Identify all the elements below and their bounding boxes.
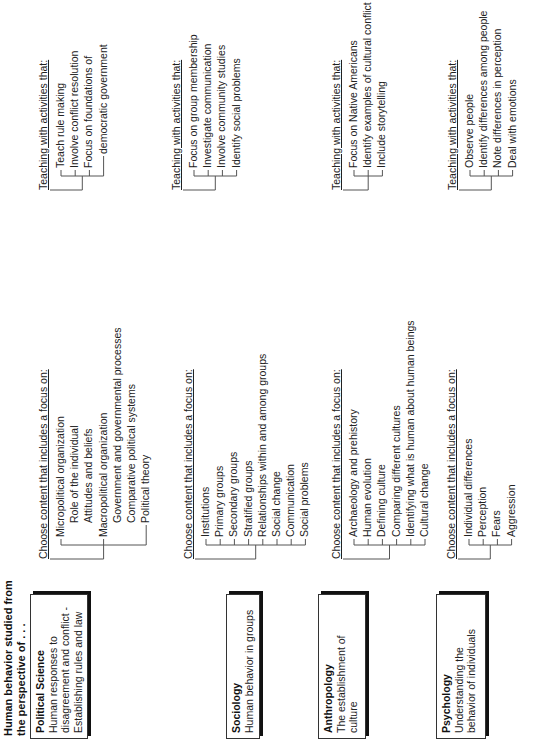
activities-heading: Teaching with activities that: bbox=[170, 60, 182, 190]
header-line-1: Human behavior studied from bbox=[2, 580, 15, 736]
activity-item: Focus on group membership bbox=[187, 34, 199, 168]
discipline-box-psychology: Psychology Understanding the behavior of… bbox=[436, 594, 486, 739]
activity-item: Observe people bbox=[463, 94, 475, 168]
content-item: Human evolution bbox=[361, 458, 373, 537]
discipline-box-anthropology: Anthropology The establishment of cultur… bbox=[318, 594, 366, 739]
content-item: Defining culture bbox=[375, 464, 387, 537]
content-item: Perception bbox=[476, 487, 488, 537]
content-item: Aggression bbox=[505, 484, 517, 537]
content-item: Macropolitical organization bbox=[97, 413, 109, 537]
activity-item: Identify examples of cultural conflict bbox=[361, 2, 373, 168]
activity-item: Focus on Native Americans bbox=[347, 40, 359, 168]
discipline-box-sociology: Sociology Human behavior in groups bbox=[226, 594, 260, 739]
activities-heading: Teaching with activities that: bbox=[330, 60, 342, 190]
content-item: Individual differences bbox=[462, 439, 474, 537]
content-item: Micropolitical organization bbox=[54, 416, 66, 537]
content-heading: Choose content that includes a focus on: bbox=[445, 369, 457, 559]
content-heading: Choose content that includes a focus on: bbox=[37, 369, 49, 559]
content-item: Archaeology and prehistory bbox=[347, 409, 359, 537]
content-item: Secondary groups bbox=[227, 452, 239, 537]
activity-item: Identify differences among people bbox=[477, 11, 489, 168]
discipline-description: The establishment of culture bbox=[335, 600, 360, 733]
activity-item: Include storytelling bbox=[375, 81, 387, 168]
content-heading: Choose content that includes a focus on: bbox=[330, 369, 342, 559]
content-item: Government and governmental processes bbox=[111, 327, 123, 523]
content-item: Fears bbox=[490, 510, 502, 537]
content-item: Communication bbox=[284, 464, 296, 537]
discipline-description: Understanding the behavior of individual… bbox=[453, 600, 478, 733]
content-item: Relationships within and among groups bbox=[256, 354, 268, 537]
content-item: Social problems bbox=[298, 462, 310, 537]
discipline-title: Anthropology bbox=[322, 600, 335, 733]
activity-item: Investigate communication bbox=[201, 44, 213, 168]
activity-item: Deal with emotions bbox=[506, 79, 518, 168]
discipline-description: Human behavior in groups bbox=[243, 600, 256, 733]
activity-item: Involve community studies bbox=[215, 45, 227, 168]
content-item: Political theory bbox=[139, 455, 151, 523]
discipline-box-political-science: Political Science Human responses to dis… bbox=[30, 594, 88, 739]
activity-item: Teach rule making bbox=[54, 83, 66, 168]
content-item: Comparative political systems bbox=[125, 384, 137, 523]
content-item: Attitudes and beliefs bbox=[82, 428, 94, 523]
activity-item: Focus on foundations of bbox=[82, 56, 94, 168]
discipline-title: Political Science bbox=[34, 600, 47, 733]
content-heading: Choose content that includes a focus on: bbox=[182, 369, 194, 559]
activities-heading: Teaching with activities that: bbox=[37, 60, 49, 190]
figure-header: Human behavior studied from the perspect… bbox=[2, 580, 28, 736]
content-item: Role of the individual bbox=[68, 426, 80, 523]
content-item: Comparing different cultures bbox=[390, 405, 402, 537]
discipline-title: Psychology bbox=[440, 600, 453, 733]
content-item: Stratified groups bbox=[242, 461, 254, 537]
figure-page: Human behavior studied from the perspect… bbox=[0, 0, 540, 739]
content-item: Cultural change bbox=[418, 463, 430, 537]
header-line-2: the perspective of . . . bbox=[15, 580, 28, 736]
discipline-description: Human responses to disagreement and conf… bbox=[47, 600, 85, 733]
activity-item: Involve conflict resolution bbox=[68, 51, 80, 168]
discipline-title: Sociology bbox=[230, 600, 243, 733]
content-item: Institutions bbox=[199, 487, 211, 537]
content-item: Primary groups bbox=[213, 466, 225, 537]
activity-item: Note differences in perception bbox=[491, 29, 503, 168]
activity-item: democratic government bbox=[97, 44, 109, 154]
activities-heading: Teaching with activities that: bbox=[446, 60, 458, 190]
activity-item: Identify social problems bbox=[230, 58, 242, 168]
content-item: Identifying what is human about human be… bbox=[404, 320, 416, 537]
content-item: Social change bbox=[270, 471, 282, 537]
